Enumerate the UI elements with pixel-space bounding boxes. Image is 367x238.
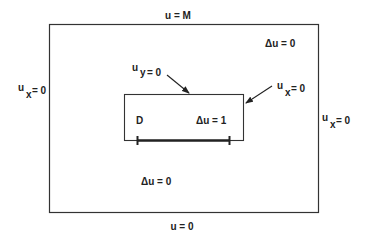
svg-text:u: u <box>322 112 328 123</box>
outer-boundary <box>50 25 319 213</box>
arrow-uy-top <box>167 75 189 93</box>
bottom-boundary-label: u = 0 <box>170 221 194 232</box>
svg-text:= 0: = 0 <box>147 67 162 78</box>
region-d-label: D <box>136 115 143 126</box>
right-boundary-label: u x = 0 <box>322 112 351 130</box>
svg-text:= 0: = 0 <box>336 115 351 126</box>
inner-right-callout-label: u x = 0 <box>277 80 306 98</box>
arrow-ux-right <box>246 86 272 103</box>
laplace-top-right-label: Δu = 0 <box>265 38 296 49</box>
svg-text:u: u <box>132 62 138 73</box>
diagram-canvas: u = M u = 0 Δu = 0 Δu = 0 u x = 0 u x = … <box>0 0 367 238</box>
left-boundary-label: u x = 0 <box>18 82 47 100</box>
svg-text:y: y <box>140 67 146 78</box>
region-d-equation: Δu = 1 <box>196 115 227 126</box>
svg-text:u: u <box>18 82 24 93</box>
svg-text:= 0: = 0 <box>32 85 47 96</box>
top-boundary-label: u = M <box>165 10 191 21</box>
inner-top-callout-label: u y = 0 <box>132 62 162 78</box>
svg-text:= 0: = 0 <box>291 83 306 94</box>
svg-text:u: u <box>277 80 283 91</box>
laplace-bottom-left-label: Δu = 0 <box>141 176 172 187</box>
